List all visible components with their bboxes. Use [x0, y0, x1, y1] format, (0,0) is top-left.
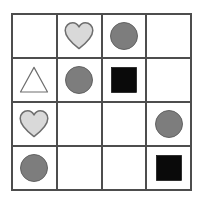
shape-grid	[11, 13, 192, 191]
grid-cell-r3c2[interactable]	[58, 103, 103, 147]
circle-icon	[109, 21, 139, 51]
grid-cell-r4c1[interactable]	[13, 147, 58, 191]
shape-grid-canvas	[0, 0, 203, 204]
grid-cell-r1c3[interactable]	[103, 15, 148, 59]
grid-cell-r2c4[interactable]	[147, 59, 192, 103]
grid-cell-r3c3[interactable]	[103, 103, 148, 147]
heart-icon	[19, 109, 49, 139]
grid-cell-r1c2[interactable]	[58, 15, 103, 59]
grid-cell-r4c4[interactable]	[147, 147, 192, 191]
heart-icon	[64, 21, 94, 51]
triangle-icon	[19, 65, 49, 95]
circle-icon	[64, 65, 94, 95]
grid-cell-r4c2[interactable]	[58, 147, 103, 191]
square-icon	[109, 65, 139, 95]
square-icon	[154, 153, 184, 183]
grid-cell-r3c1[interactable]	[13, 103, 58, 147]
grid-cell-r4c3[interactable]	[103, 147, 148, 191]
grid-cell-r2c1[interactable]	[13, 59, 58, 103]
grid-cell-r1c1[interactable]	[13, 15, 58, 59]
grid-cell-r3c4[interactable]	[147, 103, 192, 147]
grid-cell-r2c3[interactable]	[103, 59, 148, 103]
grid-cell-r2c2[interactable]	[58, 59, 103, 103]
circle-icon	[19, 153, 49, 183]
circle-icon	[154, 109, 184, 139]
grid-cell-r1c4[interactable]	[147, 15, 192, 59]
